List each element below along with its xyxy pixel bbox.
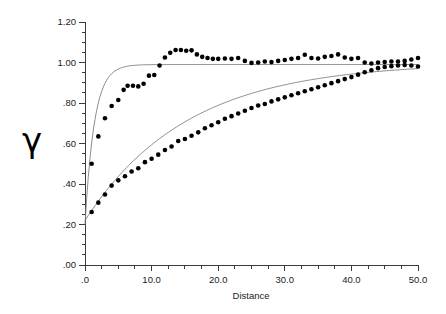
- data-point: [209, 123, 214, 128]
- data-point: [329, 81, 334, 86]
- data-point: [249, 61, 254, 66]
- x-axis-title: Distance: [233, 290, 270, 301]
- data-point: [236, 111, 241, 116]
- data-point: [173, 48, 178, 53]
- data-point: [243, 108, 248, 113]
- data-point: [369, 68, 374, 73]
- data-point: [211, 57, 216, 62]
- data-point: [369, 61, 374, 66]
- data-point: [195, 52, 200, 57]
- y-tick-label: .60: [63, 138, 76, 149]
- data-point: [89, 161, 94, 166]
- data-point: [362, 70, 367, 75]
- data-point: [283, 58, 288, 63]
- data-point: [149, 156, 154, 161]
- data-point: [229, 114, 234, 119]
- data-point: [123, 174, 128, 179]
- data-point: [256, 60, 261, 65]
- data-point: [362, 60, 367, 65]
- data-point: [136, 166, 141, 171]
- data-point: [322, 83, 327, 88]
- data-point: [109, 104, 114, 109]
- data-point: [189, 134, 194, 139]
- x-tick-label: 40.0: [342, 274, 361, 285]
- data-point: [216, 57, 221, 62]
- chart-container: .00.20.40.60.801.001.20 .010.020.030.040…: [0, 0, 446, 314]
- x-axis: .010.020.030.040.050.0: [81, 265, 427, 285]
- data-point: [376, 66, 381, 71]
- data-point: [382, 60, 387, 65]
- data-point: [316, 56, 321, 61]
- data-point: [163, 148, 168, 153]
- y-tick-label: 1.20: [58, 16, 77, 27]
- data-point: [409, 63, 414, 68]
- data-point: [229, 57, 234, 62]
- data-point: [116, 178, 121, 183]
- data-point: [416, 56, 421, 61]
- data-point: [276, 59, 281, 64]
- data-point: [402, 63, 407, 68]
- data-point: [147, 73, 152, 78]
- fit-curve-lower-variogram: [85, 69, 418, 221]
- x-tick-label: .0: [81, 274, 89, 285]
- data-point: [116, 98, 121, 103]
- data-point: [243, 59, 248, 64]
- data-point: [156, 152, 161, 157]
- data-point: [96, 200, 101, 205]
- data-point: [402, 59, 407, 64]
- data-point: [396, 63, 401, 68]
- data-points: [89, 48, 420, 215]
- data-point: [109, 183, 114, 188]
- data-point: [125, 83, 130, 88]
- data-point: [216, 120, 221, 125]
- data-point: [336, 79, 341, 84]
- data-point: [141, 81, 146, 86]
- data-point: [382, 65, 387, 70]
- data-point: [183, 137, 188, 142]
- data-point: [205, 56, 210, 61]
- data-point: [152, 73, 157, 78]
- data-point: [163, 55, 168, 60]
- data-point: [103, 192, 108, 197]
- x-tick-label: 20.0: [209, 274, 228, 285]
- data-point: [203, 126, 208, 131]
- data-point: [89, 210, 94, 215]
- y-tick-label: .00: [63, 259, 76, 270]
- data-point: [309, 87, 314, 92]
- data-point: [296, 56, 301, 61]
- data-point: [389, 59, 394, 64]
- x-tick-label: 50.0: [409, 274, 428, 285]
- data-point: [336, 52, 341, 57]
- y-tick-label: .20: [63, 219, 76, 230]
- data-point: [349, 75, 354, 80]
- data-point: [356, 56, 361, 61]
- y-tick-label: .80: [63, 97, 76, 108]
- data-point: [263, 102, 268, 107]
- data-point: [322, 55, 327, 60]
- data-point: [189, 48, 194, 53]
- y-axis: .00.20.40.60.801.001.20: [58, 16, 86, 270]
- data-point: [184, 48, 189, 53]
- y-tick-label: 1.00: [58, 57, 77, 68]
- data-point: [96, 134, 101, 139]
- data-point: [409, 57, 414, 62]
- data-point: [236, 56, 241, 61]
- data-point: [143, 160, 148, 165]
- data-point: [356, 72, 361, 77]
- data-point: [157, 63, 162, 68]
- data-point: [179, 48, 184, 53]
- data-point: [296, 91, 301, 96]
- data-point: [256, 103, 261, 108]
- data-point: [249, 106, 254, 111]
- y-tick-label: .40: [63, 178, 76, 189]
- data-point: [223, 56, 228, 61]
- x-tick-label: 10.0: [142, 274, 161, 285]
- data-point: [342, 55, 347, 60]
- data-point: [376, 60, 381, 65]
- data-point: [389, 64, 394, 69]
- data-point: [289, 57, 294, 62]
- y-axis-title: γ: [22, 120, 42, 160]
- fit-curve-upper-variogram: [85, 65, 418, 225]
- data-point: [309, 56, 314, 61]
- data-point: [263, 59, 268, 64]
